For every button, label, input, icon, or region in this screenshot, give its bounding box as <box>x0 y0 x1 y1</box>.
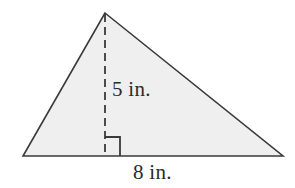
geometry-figure-canvas: 5 in. 8 in. <box>0 0 295 188</box>
base-dimension-label: 8 in. <box>133 162 172 183</box>
height-dimension-label: 5 in. <box>112 79 151 100</box>
triangle-shape <box>23 13 283 156</box>
